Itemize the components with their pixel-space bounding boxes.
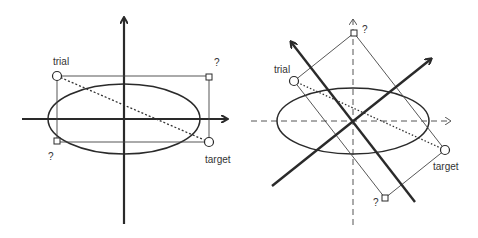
right-unknown-point-bottom <box>382 195 388 201</box>
right-unknown-point-top <box>351 30 357 36</box>
right-trial-target-line <box>294 81 445 150</box>
left-panel: trial target ? ? <box>22 18 231 224</box>
right-unknown-label-top: ? <box>362 24 368 35</box>
left-unknown-label-top-right: ? <box>214 57 220 68</box>
left-unknown-label-bottom-left: ? <box>48 151 54 162</box>
left-target-label: target <box>205 154 231 165</box>
right-trial-label: trial <box>274 64 290 75</box>
right-panel: trial target ? ? <box>251 19 459 225</box>
left-unknown-point-top-right <box>206 74 212 80</box>
left-target-point <box>205 138 214 147</box>
right-trial-point <box>290 77 299 86</box>
right-bounding-rect <box>294 33 445 198</box>
left-unknown-point-bottom-left <box>54 138 60 144</box>
diagram-canvas: trial target ? ? trial target ? ? <box>0 0 478 238</box>
left-trial-label: trial <box>53 56 69 67</box>
right-rotated-axis-2 <box>291 42 415 202</box>
right-target-label: target <box>433 161 459 172</box>
right-unknown-label-bottom: ? <box>373 197 379 208</box>
left-trial-target-line <box>57 76 209 142</box>
left-trial-point <box>53 72 62 81</box>
right-target-point <box>441 146 450 155</box>
